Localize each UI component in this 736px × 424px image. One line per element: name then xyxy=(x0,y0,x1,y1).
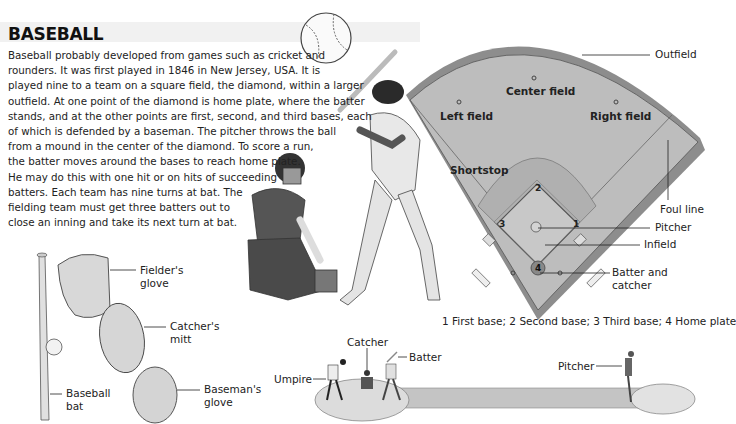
baseball-bat xyxy=(37,253,62,420)
baseball-bat-label: Baseball bat xyxy=(66,387,111,413)
label-line: mitt xyxy=(170,333,219,346)
foul-line-label: Foul line xyxy=(660,203,704,216)
base-3-number: 3 xyxy=(499,218,505,231)
side-pitcher-label: Pitcher xyxy=(558,360,594,373)
label-line: catcher xyxy=(612,279,668,292)
basemans-glove-label: Baseman's glove xyxy=(204,383,261,409)
label-line: Baseball xyxy=(66,387,111,400)
base-2-number: 2 xyxy=(535,182,541,195)
intro-line: of which is defended by a baseman. The p… xyxy=(8,124,308,139)
left-field-label: Left field xyxy=(440,110,493,123)
label-line: glove xyxy=(204,396,261,409)
basemans-glove xyxy=(133,367,200,423)
center-field-label: Center field xyxy=(506,85,575,98)
label-line: Fielder's xyxy=(140,264,183,277)
catchers-mitt xyxy=(94,300,166,377)
pitcher-label: Pitcher xyxy=(655,221,691,234)
intro-line: outfield. At one point of the diamond is… xyxy=(8,94,308,109)
intro-line: played nine to a team on a square field,… xyxy=(8,78,308,93)
label-line: glove xyxy=(140,277,183,290)
label-line: Baseman's xyxy=(204,383,261,396)
base-1-number: 1 xyxy=(573,218,579,231)
intro-line: He may do this with one hit or on hits o… xyxy=(8,170,308,185)
umpire-label: Umpire xyxy=(274,373,312,386)
intro-line: rounders. It was first played in 1846 in… xyxy=(8,63,308,78)
infield-label: Infield xyxy=(644,238,676,251)
batter-catcher-label: Batter and catcher xyxy=(612,266,668,292)
intro-line: fielding team must get three batters out… xyxy=(8,200,308,215)
page-title: BASEBALL xyxy=(8,24,103,44)
right-field-label: Right field xyxy=(590,110,651,123)
base-4-number: 4 xyxy=(535,262,541,275)
catchers-mitt-label: Catcher's mitt xyxy=(170,320,219,346)
side-view-diagram xyxy=(313,348,695,421)
shortstop-label: Shortstop xyxy=(450,164,508,177)
outfield-label: Outfield xyxy=(655,48,697,61)
fielders-glove-label: Fielder's glove xyxy=(140,264,183,290)
intro-paragraph: Baseball probably developed from games s… xyxy=(8,48,308,230)
catcher-label: Catcher xyxy=(347,336,388,349)
label-line: Catcher's xyxy=(170,320,219,333)
label-line: bat xyxy=(66,400,111,413)
intro-line: from a mound in the center of the diamon… xyxy=(8,139,308,154)
intro-line: stands, and at the other points are firs… xyxy=(8,109,308,124)
batter-label: Batter xyxy=(409,351,442,364)
intro-line: batters. Each team has nine turns at bat… xyxy=(8,185,308,200)
bases-caption: 1 First base; 2 Second base; 3 Third bas… xyxy=(442,315,736,327)
intro-line: the batter moves around the bases to rea… xyxy=(8,154,308,169)
intro-line: close an inning and take its next turn a… xyxy=(8,215,308,230)
intro-line: Baseball probably developed from games s… xyxy=(8,48,308,63)
label-line: Batter and xyxy=(612,266,668,279)
